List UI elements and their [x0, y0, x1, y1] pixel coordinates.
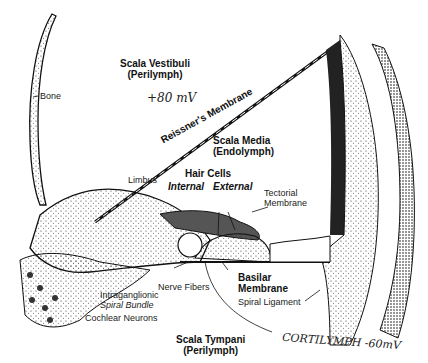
bone-label: Bone [40, 92, 61, 102]
scala-media-label: Scala Media (Endolymph) [213, 135, 274, 157]
external-hair-cells-label: External [213, 181, 252, 192]
basilar-membrane-label: Basilar Membrane [238, 272, 288, 294]
scala-tympani-label: Scala Tympani (Perilymph) [176, 334, 245, 356]
internal-hair-cells-label: Internal [168, 181, 204, 192]
spiral-ligament-region [320, 35, 378, 345]
cochlear-neurons-label: Cochlear Neurons [85, 314, 158, 324]
scala-vestibuli-label: Scala Vestibuli (Perilymph) [120, 58, 190, 80]
hair-cells-label: Hair Cells [185, 168, 231, 179]
sv-potential-note: +80 mV [147, 92, 196, 105]
tectorial-membrane-label: Tectorial Membrane [264, 189, 307, 209]
spiral-ligament-label: Spiral Ligament [238, 298, 301, 308]
limbus-label: Limbus [128, 176, 157, 186]
cochlea-diagram: Scala Vestibuli (Perilymph) +80 mV Bone … [0, 0, 428, 363]
intraganglionic-spiral-bundle-label: Intraganglionic Spiral Bundle [100, 291, 159, 311]
bone-wall [30, 14, 56, 205]
nerve-fibers-label: Nerve Fibers [158, 283, 210, 293]
